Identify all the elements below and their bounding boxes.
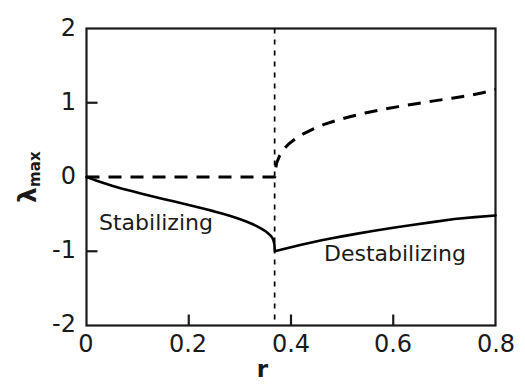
xtick-label-0: 0 xyxy=(61,332,111,356)
plot-frame-box xyxy=(87,29,496,326)
xtick-label-0p8: 0.8 xyxy=(471,332,521,356)
annotation-destabilizing: Destabilizing xyxy=(324,243,466,265)
ytick-label-neg1: -1 xyxy=(30,238,76,262)
y-axis-title-wrapper: λmax xyxy=(6,132,52,222)
series-dashed-branch xyxy=(87,89,496,177)
plot-frame xyxy=(87,29,496,326)
x-axis-title: r xyxy=(0,358,525,381)
annotation-stabilizing: Stabilizing xyxy=(99,212,213,234)
xtick-label-0p6: 0.6 xyxy=(368,332,418,356)
ytick-label-1: 1 xyxy=(38,90,76,114)
xtick-label-0p2: 0.2 xyxy=(163,332,213,356)
y-axis-title-symbol: λ xyxy=(13,187,42,203)
bifurcation-lyapunov-plot xyxy=(0,0,525,385)
y-axis-title-subscript: max xyxy=(26,151,44,187)
xtick-label-0p4: 0.4 xyxy=(266,332,316,356)
ytick-label-2: 2 xyxy=(38,16,76,40)
figure-container: 2 1 0 -1 -2 0 0.2 0.4 0.6 0.8 r λmax Sta… xyxy=(0,0,525,385)
y-axis-title: λmax xyxy=(15,151,43,203)
